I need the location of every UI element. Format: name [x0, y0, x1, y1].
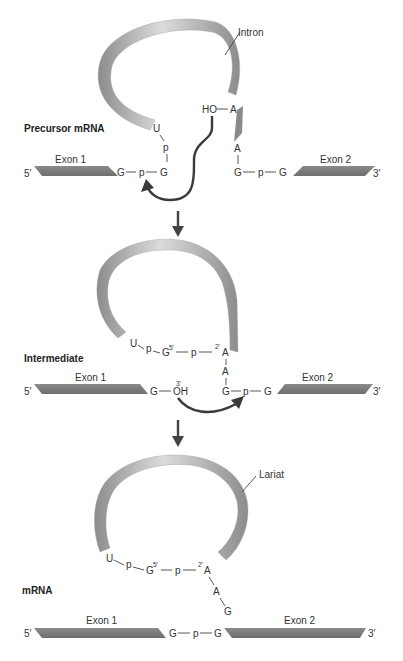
splice3-phosphate: p [258, 167, 264, 178]
hydroxyl-ho: HO [202, 104, 217, 115]
loop-p1: p [126, 559, 132, 570]
intron-last-g: G [222, 386, 230, 397]
loop-u: U [130, 338, 137, 349]
loop-a2: A [222, 366, 229, 377]
stage-label-intermediate: Intermediate [24, 353, 84, 364]
five-prime-end: 5′ [24, 168, 32, 179]
exon1-label: Exon 1 [75, 372, 107, 383]
arrow-head-icon [141, 179, 154, 192]
loop-a-2prime: 2′ [215, 343, 221, 350]
lariat-leader-line [242, 476, 256, 492]
exon2-label: Exon 2 [284, 615, 316, 626]
arrow-head-icon [231, 396, 244, 409]
five-prime-end: 5′ [24, 628, 32, 639]
down-arrow-icon [172, 226, 184, 237]
loop-a: A [222, 347, 229, 358]
three-prime-end: 3′ [373, 386, 381, 397]
exon1-bar [34, 628, 166, 638]
loop-p1: p [146, 343, 152, 354]
step-arrow-1 [172, 211, 184, 237]
loop-a2: A [213, 586, 220, 597]
stage-label-precursor: Precursor mRNA [24, 123, 105, 134]
exon2-bar [293, 166, 375, 176]
intron-label: Intron [238, 27, 264, 38]
five-prime-end: 5′ [24, 386, 32, 397]
mrna-stage: Lariat U p G 5′ p 2′ A A G mRNA 5′ Exon … [22, 455, 376, 639]
junction-p: p [193, 628, 199, 639]
exon1-boundary-g: G [117, 167, 125, 178]
exon1-label: Exon 1 [86, 615, 118, 626]
loop-u: U [106, 553, 113, 564]
lariat-ribbon [94, 455, 248, 560]
loop-g-5prime: 5′ [153, 561, 159, 568]
bond [138, 345, 144, 349]
stage-label-mrna: mRNA [22, 585, 53, 596]
loop-a: A [204, 565, 211, 576]
nucleotide-u: U [153, 123, 160, 134]
three-prime-end: 3′ [368, 628, 376, 639]
loop-a-2prime: 2′ [198, 561, 204, 568]
lariat-label: Lariat [259, 469, 284, 480]
exon2-first-g: G [279, 167, 287, 178]
phosphate-p: p [163, 142, 169, 153]
bond [153, 351, 160, 353]
exon1-oh: OH [173, 386, 188, 397]
exon1-bar [34, 384, 148, 394]
intron-ribbon [98, 19, 240, 130]
bond [114, 560, 124, 565]
bond [209, 577, 214, 585]
three-prime-end: 3′ [373, 168, 381, 179]
bond [133, 567, 144, 570]
exon2-label: Exon 2 [302, 372, 334, 383]
branch-a: A [230, 104, 237, 115]
exon2-label: Exon 2 [320, 154, 352, 165]
intron-loop-ribbon [97, 239, 238, 352]
precursor-stage: Intron Precursor mRNA U p 5′ Exon 1 G p … [24, 19, 381, 200]
splice-phosphate-p: p [139, 167, 145, 178]
loop-g-5prime: 5′ [169, 344, 175, 351]
exon2-bar [277, 384, 373, 394]
step-arrow-2 [172, 420, 184, 447]
bond [220, 598, 225, 606]
splice3-phosphate: p [243, 386, 249, 397]
junction-g2: G [214, 628, 222, 639]
exon2-first-g: G [264, 386, 272, 397]
intron-last-g: G [234, 167, 242, 178]
intron-last-a: A [234, 143, 241, 154]
junction-g1: G [169, 628, 177, 639]
intermediate-stage: Intermediate U p G 5′ p 2′ A A 5′ Exon 1… [24, 239, 381, 412]
intron-first-g: G [160, 167, 168, 178]
down-arrow-icon [172, 436, 184, 447]
lariat-tail-g: G [224, 606, 232, 617]
splicing-diagram: Intron Precursor mRNA U p 5′ Exon 1 G p … [0, 0, 403, 661]
loop-p2: p [191, 347, 197, 358]
loop-p2: p [175, 565, 181, 576]
exon1-label: Exon 1 [55, 154, 87, 165]
nucleophilic-attack-arrow [178, 398, 236, 412]
bond [160, 135, 164, 141]
exon1-boundary-g: G [150, 386, 158, 397]
exon1-bar [34, 166, 118, 176]
exon2-bar [224, 628, 366, 638]
